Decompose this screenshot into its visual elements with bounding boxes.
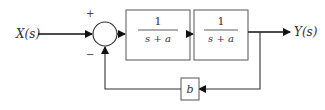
input-label: X(s) [15,27,40,41]
plus-sign: + [86,8,94,19]
block-diagram: X(s) + − 1 s + a 1 s + a Y(s) b [0,0,325,110]
minus-sign: − [86,49,94,60]
feedback-gain-label: b [186,83,193,96]
block1-denominator: s + a [145,33,171,44]
block2-denominator: s + a [208,33,234,44]
feedback-block: b [181,78,199,100]
transfer-block-2: 1 s + a [194,10,248,60]
block2-numerator: 1 [218,15,225,28]
block1-numerator: 1 [155,15,162,28]
summing-junction [93,22,117,46]
transfer-block-1: 1 s + a [126,10,190,60]
output-label: Y(s) [294,25,318,39]
